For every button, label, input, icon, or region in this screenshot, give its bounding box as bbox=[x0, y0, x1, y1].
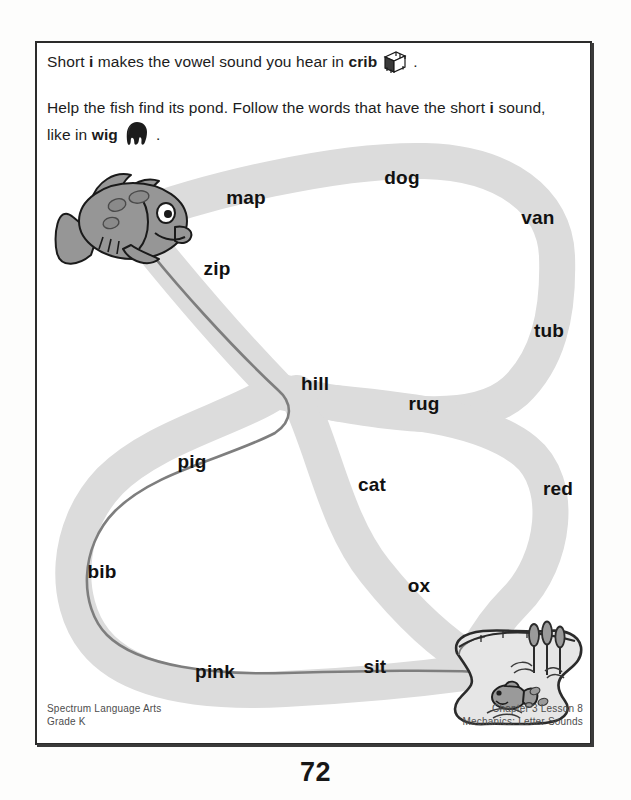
maze-word-tub[interactable]: tub bbox=[534, 320, 564, 342]
maze-word-map[interactable]: map bbox=[226, 187, 266, 209]
maze-word-bib[interactable]: bib bbox=[87, 561, 116, 583]
maze-word-dog[interactable]: dog bbox=[384, 167, 419, 189]
maze-word-rug[interactable]: rug bbox=[408, 393, 439, 415]
maze-word-zip[interactable]: zip bbox=[204, 258, 231, 280]
maze-word-cat[interactable]: cat bbox=[358, 474, 386, 496]
maze-word-van[interactable]: van bbox=[521, 207, 554, 229]
maze-word-sit[interactable]: sit bbox=[364, 656, 387, 678]
footer-right: Chapter 3 Lesson 8 Mechanics: Letter Sou… bbox=[463, 702, 583, 728]
cattail-icon bbox=[529, 622, 565, 676]
footer-left: Spectrum Language Arts Grade K bbox=[47, 702, 161, 728]
maze-word-red[interactable]: red bbox=[543, 478, 573, 500]
page-number: 72 bbox=[0, 757, 631, 788]
maze-word-ox[interactable]: ox bbox=[408, 575, 431, 597]
maze-area: map dog van tub zip hill rug cat red pig… bbox=[35, 41, 592, 745]
maze-word-pink[interactable]: pink bbox=[195, 661, 235, 683]
footer-grade: Grade K bbox=[47, 715, 161, 728]
maze-word-hill[interactable]: hill bbox=[301, 373, 329, 395]
worksheet-page: Short i makes the vowel sound you hear i… bbox=[0, 0, 631, 800]
footer-series-title: Spectrum Language Arts bbox=[47, 702, 161, 715]
footer-topic: Mechanics: Letter Sounds bbox=[463, 715, 583, 728]
maze-word-pig[interactable]: pig bbox=[177, 451, 206, 473]
footer-chapter-lesson: Chapter 3 Lesson 8 bbox=[463, 702, 583, 715]
